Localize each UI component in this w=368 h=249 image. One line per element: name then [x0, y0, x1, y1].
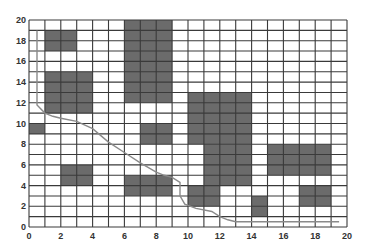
y-axis-ticks: 02468101214161820: [16, 15, 26, 232]
y-tick-label: 6: [21, 160, 26, 170]
obstacle-cell: [29, 124, 45, 134]
y-tick-label: 12: [16, 98, 26, 108]
x-tick-label: 18: [310, 231, 320, 241]
y-tick-label: 14: [16, 77, 26, 87]
y-tick-label: 0: [21, 222, 26, 232]
y-tick-label: 18: [16, 36, 26, 46]
y-tick-label: 10: [16, 119, 26, 129]
x-tick-label: 14: [247, 231, 257, 241]
y-tick-label: 16: [16, 56, 26, 66]
grid-lines: [29, 20, 347, 227]
x-tick-label: 10: [183, 231, 193, 241]
x-tick-label: 4: [90, 231, 95, 241]
x-tick-label: 16: [278, 231, 288, 241]
x-tick-label: 6: [122, 231, 127, 241]
y-tick-label: 2: [21, 201, 26, 211]
y-tick-label: 8: [21, 139, 26, 149]
x-axis-ticks: 02468101214161820: [26, 231, 352, 241]
x-tick-label: 20: [342, 231, 352, 241]
x-tick-label: 0: [26, 231, 31, 241]
grid-path-chart: 02468101214161820 02468101214161820: [0, 0, 368, 249]
x-tick-label: 12: [215, 231, 225, 241]
y-tick-label: 20: [16, 15, 26, 25]
x-tick-label: 8: [154, 231, 159, 241]
y-tick-label: 4: [21, 181, 26, 191]
x-tick-label: 2: [58, 231, 63, 241]
